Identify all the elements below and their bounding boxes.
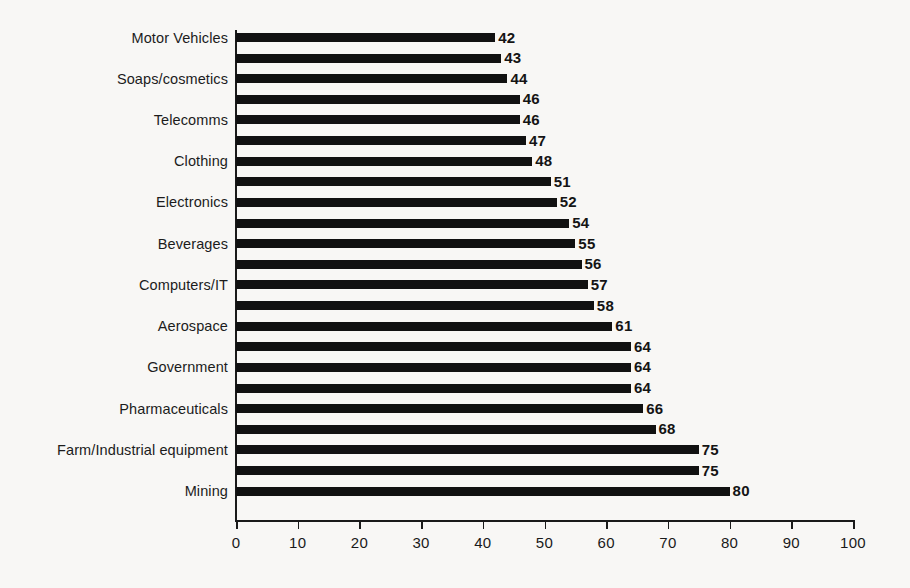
bar-row: 80 xyxy=(236,487,853,496)
bar-value-label: 42 xyxy=(495,29,515,46)
category-label: Electronics xyxy=(156,194,228,210)
bar-row: 48 xyxy=(236,157,853,166)
x-axis-tick xyxy=(298,520,300,529)
x-axis-tick xyxy=(236,520,238,529)
bar xyxy=(236,177,551,186)
bar-value-label: 80 xyxy=(730,482,750,499)
category-label: Pharmaceuticals xyxy=(119,401,228,417)
bar-value-label: 75 xyxy=(699,462,719,479)
bar-row: 75 xyxy=(236,466,853,475)
x-axis-tick xyxy=(730,520,732,529)
bar-value-label: 64 xyxy=(631,338,651,355)
bar-value-label: 64 xyxy=(631,379,651,396)
bar xyxy=(236,136,526,145)
bar-value-label: 55 xyxy=(575,235,595,252)
bar-row: 42 xyxy=(236,33,853,42)
x-axis-tick xyxy=(421,520,423,529)
bar xyxy=(236,280,588,289)
bar-value-label: 46 xyxy=(520,111,540,128)
category-label: Computers/IT xyxy=(139,277,228,293)
category-label: Farm/Industrial equipment xyxy=(57,442,228,458)
bar xyxy=(236,260,582,269)
x-axis-tick xyxy=(668,520,670,529)
bar-value-label: 61 xyxy=(612,317,632,334)
bar xyxy=(236,301,594,310)
bar-row: 64 xyxy=(236,363,853,372)
bar xyxy=(236,115,520,124)
bar xyxy=(236,74,507,83)
bar-value-label: 43 xyxy=(501,49,521,66)
category-label: Motor Vehicles xyxy=(132,30,229,46)
bar-row: 52 xyxy=(236,198,853,207)
bar xyxy=(236,466,699,475)
bar-row: 68 xyxy=(236,425,853,434)
bar-row: 46 xyxy=(236,95,853,104)
bar xyxy=(236,33,495,42)
bar-row: 56 xyxy=(236,260,853,269)
x-axis-tick-label: 70 xyxy=(659,534,676,551)
bar xyxy=(236,95,520,104)
category-label: Mining xyxy=(185,483,228,499)
x-axis-tick-label: 80 xyxy=(721,534,738,551)
bar xyxy=(236,487,730,496)
bar-row: 66 xyxy=(236,404,853,413)
x-axis-tick-label: 90 xyxy=(783,534,800,551)
bar xyxy=(236,363,631,372)
bar xyxy=(236,322,612,331)
bar-row: 51 xyxy=(236,177,853,186)
bar xyxy=(236,342,631,351)
bar xyxy=(236,445,699,454)
bar xyxy=(236,404,643,413)
bar-row: 64 xyxy=(236,342,853,351)
x-axis-tick xyxy=(791,520,793,529)
bar-value-label: 48 xyxy=(532,152,552,169)
x-axis-tick-label: 40 xyxy=(474,534,491,551)
bar xyxy=(236,425,656,434)
x-axis-tick-label: 30 xyxy=(412,534,429,551)
bar-row: 46 xyxy=(236,115,853,124)
x-axis-tick xyxy=(483,520,485,529)
category-label: Telecomms xyxy=(154,112,228,128)
bar-value-label: 68 xyxy=(656,420,676,437)
bar-row: 44 xyxy=(236,74,853,83)
bar-value-label: 58 xyxy=(594,297,614,314)
bar-value-label: 47 xyxy=(526,132,546,149)
bar-row: 54 xyxy=(236,219,853,228)
bar-value-label: 64 xyxy=(631,359,651,376)
bar-row: 61 xyxy=(236,322,853,331)
bar xyxy=(236,157,532,166)
bar xyxy=(236,54,501,63)
category-label: Soaps/cosmetics xyxy=(117,71,228,87)
plot-area: 4243444646474851525455565758616464646668… xyxy=(236,28,853,520)
category-label: Clothing xyxy=(174,153,228,169)
category-label: Government xyxy=(147,359,228,375)
bar-value-label: 75 xyxy=(699,441,719,458)
bar-row: 64 xyxy=(236,384,853,393)
bar xyxy=(236,198,557,207)
bar-value-label: 66 xyxy=(643,400,663,417)
bar-row: 47 xyxy=(236,136,853,145)
x-axis-tick xyxy=(359,520,361,529)
bar-row: 43 xyxy=(236,54,853,63)
bar-row: 55 xyxy=(236,239,853,248)
x-axis-tick-label: 50 xyxy=(536,534,553,551)
x-axis-tick-label: 20 xyxy=(351,534,368,551)
bar-value-label: 51 xyxy=(551,173,571,190)
x-axis-tick xyxy=(853,520,855,529)
bar-value-label: 54 xyxy=(569,214,589,231)
bar-row: 57 xyxy=(236,280,853,289)
x-axis-tick xyxy=(545,520,547,529)
bar-chart: 4243444646474851525455565758616464646668… xyxy=(0,0,910,588)
bar xyxy=(236,219,569,228)
x-axis-tick-label: 0 xyxy=(232,534,241,551)
bar xyxy=(236,239,575,248)
bar-value-label: 44 xyxy=(507,70,527,87)
bar-value-label: 52 xyxy=(557,194,577,211)
bar-value-label: 57 xyxy=(588,276,608,293)
x-axis-tick-label: 100 xyxy=(840,534,866,551)
bar-value-label: 46 xyxy=(520,91,540,108)
x-axis-tick-label: 60 xyxy=(598,534,615,551)
bar-value-label: 56 xyxy=(582,255,602,272)
category-label: Aerospace xyxy=(158,318,228,334)
x-axis-tick-label: 10 xyxy=(289,534,306,551)
